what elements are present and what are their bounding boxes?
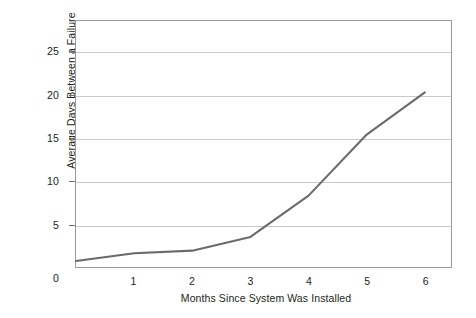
- y-tick-label-15: 15: [33, 133, 59, 144]
- x-tick-label-2: 2: [177, 276, 207, 287]
- series-line-average-days-between-failure: [76, 92, 425, 261]
- chart-figure: Average Days Between a Failure 510152025…: [0, 0, 476, 318]
- x-tick-label-4: 4: [294, 276, 324, 287]
- y-tick-mark-20: [69, 95, 75, 96]
- x-tick-label-3: 3: [235, 276, 265, 287]
- y-tick-label-20: 20: [33, 90, 59, 101]
- y-tick-mark-10: [69, 181, 75, 182]
- y-tick-label-0: 0: [33, 273, 59, 284]
- y-tick-mark-5: [69, 225, 75, 226]
- x-tick-label-1: 1: [118, 276, 148, 287]
- y-tick-label-25: 25: [33, 46, 59, 57]
- x-tick-label-6: 6: [411, 276, 441, 287]
- y-tick-mark-15: [69, 138, 75, 139]
- y-tick-mark-25: [69, 51, 75, 52]
- x-tick-label-5: 5: [352, 276, 382, 287]
- x-axis-title: Months Since System Was Installed: [125, 292, 351, 304]
- plot-area: [75, 20, 452, 268]
- y-tick-label-10: 10: [33, 176, 59, 187]
- y-tick-label-5: 5: [33, 220, 59, 231]
- x-axis: Months Since System Was Installed: [0, 293, 476, 304]
- series-line-chart: [76, 21, 451, 267]
